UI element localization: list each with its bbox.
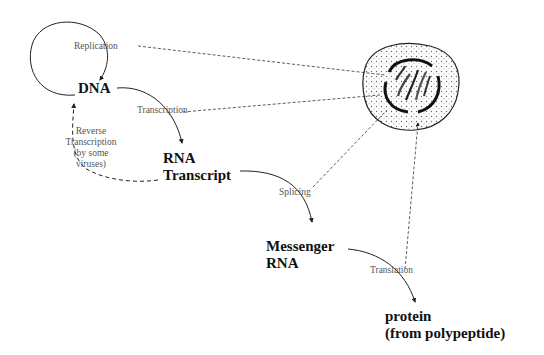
label-translation: Translation [370, 265, 413, 276]
label-reverse-transcription: Reverse Transcription (by some viruses) [56, 126, 126, 170]
splicing-connector [313, 110, 387, 187]
node-rna-transcript: RNA Transcript [163, 150, 231, 184]
label-splicing: Splicing [279, 187, 311, 198]
diagram-artwork [0, 0, 544, 355]
cell-with-nucleus-icon [363, 44, 459, 131]
label-replication: Replication [74, 41, 118, 52]
replication-connector [138, 46, 385, 75]
label-transcription: Transcription [137, 105, 188, 116]
transcription-connector [183, 95, 380, 112]
translation-connector [405, 123, 418, 269]
node-messenger-rna: Messenger RNA [266, 238, 334, 272]
node-dna: DNA [78, 80, 111, 97]
central-dogma-diagram: Replication Transcription Reverse Transc… [0, 0, 544, 355]
node-protein: protein (from polypeptide) [385, 308, 505, 342]
